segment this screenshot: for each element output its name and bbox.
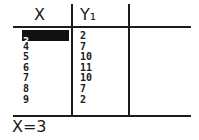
- status-line: X=3: [12, 117, 47, 137]
- x-cell[interactable]: 8: [23, 84, 29, 95]
- y1-cell[interactable]: 2: [80, 31, 92, 42]
- y1-column: 2 7 10 11 10 7 2: [80, 31, 92, 105]
- header-divider: [13, 26, 191, 28]
- column-header-x[interactable]: X: [34, 6, 45, 24]
- x-column: 3 4 5 6 7 8 9: [23, 31, 29, 105]
- column-header-y1[interactable]: Y₁: [80, 6, 96, 24]
- column-divider-1: [71, 4, 73, 117]
- y1-cell[interactable]: 2: [80, 95, 92, 106]
- column-divider-2: [128, 4, 130, 117]
- x-cell[interactable]: 9: [23, 95, 29, 106]
- selected-cell[interactable]: 3: [22, 30, 69, 41]
- y1-cell[interactable]: 7: [80, 84, 92, 95]
